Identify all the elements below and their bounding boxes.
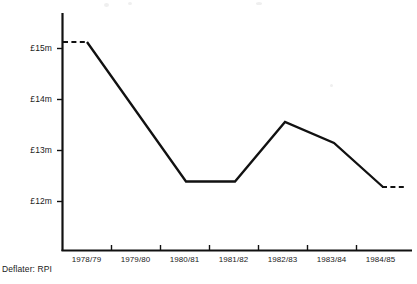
- x-axis-ticks: [112, 245, 357, 250]
- y-axis-label-13m: £13m: [0, 145, 52, 155]
- chart-plot-area: [0, 0, 417, 284]
- y-axis-label-14m: £14m: [0, 94, 52, 104]
- x-axis-label-1980-81: 1980/81: [160, 255, 209, 265]
- y-axis-label-15m: £15m: [0, 43, 52, 53]
- line-chart: £15m £14m £13m £12m 1978/79 1979/80 1980…: [0, 0, 417, 284]
- y-axis-label-12m: £12m: [0, 196, 52, 206]
- x-axis-label-1981-82: 1981/82: [209, 255, 258, 265]
- x-axis-label-1978-79: 1978/79: [62, 255, 111, 265]
- x-axis-label-1984-85: 1984/85: [356, 255, 405, 265]
- y-axis-ticks: [57, 49, 62, 202]
- x-axis-label-1983-84: 1983/84: [307, 255, 356, 265]
- x-axis-label-1979-80: 1979/80: [111, 255, 160, 265]
- deflater-note: Deflater: RPI: [2, 264, 52, 275]
- series-line-solid: [87, 42, 383, 187]
- x-axis-label-1982-83: 1982/83: [258, 255, 307, 265]
